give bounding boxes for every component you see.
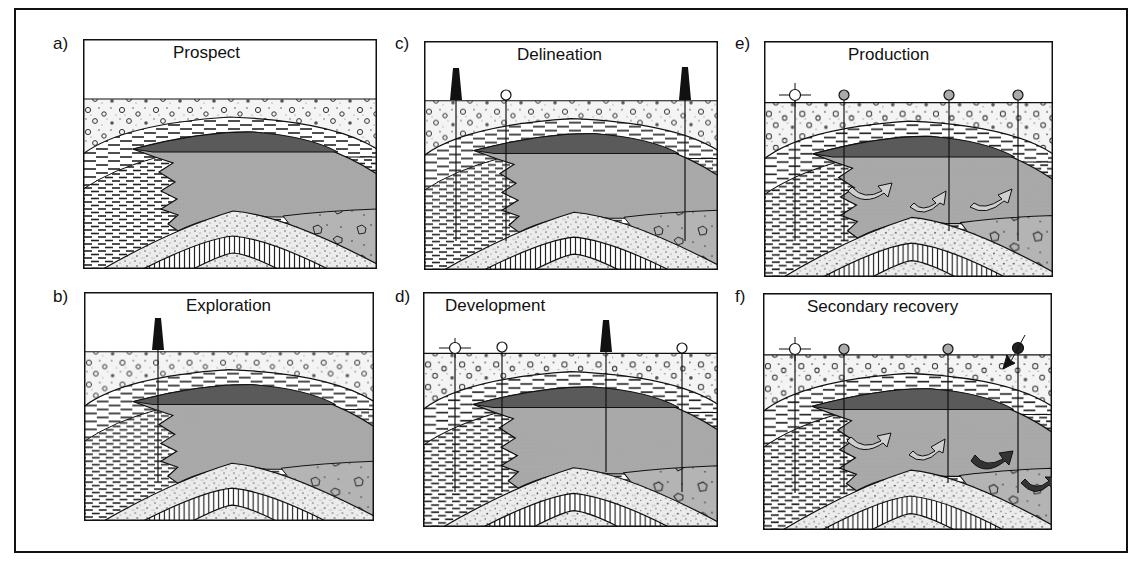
panel-delineation: Delineation <box>424 41 718 270</box>
panel-label-d: d) <box>395 287 410 307</box>
flow-arrow-icon <box>848 183 1012 212</box>
panel-production: Production <box>764 41 1053 277</box>
drilling-rig-icon <box>679 67 691 100</box>
wells-overlay <box>764 41 1053 277</box>
producing-well-icon <box>944 90 954 100</box>
drilling-rig-icon <box>600 320 612 352</box>
producing-well-icon <box>943 344 953 354</box>
panel-label-a: a) <box>53 34 68 54</box>
suspended-well-icon <box>677 343 687 353</box>
panel-prospect: Prospect <box>83 39 377 269</box>
panel-development: Development <box>423 292 718 527</box>
wells-overlay <box>763 293 1052 530</box>
suspended-well-icon <box>501 90 511 100</box>
wells-overlay <box>423 292 718 527</box>
producing-well-icon <box>839 344 849 354</box>
water-drive-arrow-icon <box>971 451 1052 492</box>
panel-exploration: Exploration <box>84 292 374 521</box>
panel-label-f: f) <box>735 287 745 307</box>
cross-section-svg <box>83 39 377 269</box>
drilling-rig-icon <box>450 68 462 100</box>
panel-label-e: e) <box>735 34 750 54</box>
suspended-well-icon <box>497 342 507 352</box>
drilling-rig-icon <box>152 318 164 350</box>
panel-title: Prospect <box>173 43 240 63</box>
panel-label-b: b) <box>53 287 68 307</box>
producing-well-icon <box>839 90 849 100</box>
panel-label-c: c) <box>395 34 409 54</box>
panel-secondary-recovery: Secondary recovery <box>763 293 1052 530</box>
wells-overlay <box>84 292 374 521</box>
producing-well-icon <box>1013 90 1023 100</box>
wells-overlay <box>424 41 718 270</box>
flow-arrow-icon <box>847 433 945 460</box>
